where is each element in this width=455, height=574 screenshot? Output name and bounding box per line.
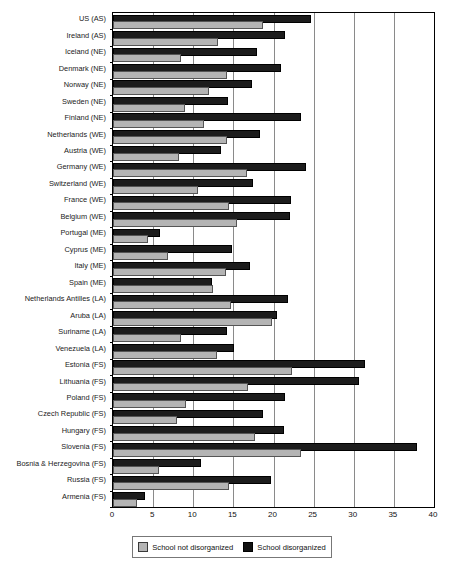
category-label: Russia (FS) [0,476,106,484]
category-label: Ireland (AS) [0,32,106,40]
bar-school-not-disorganized [113,169,247,177]
category-label: Armenia (FS) [0,493,106,501]
bar-school-not-disorganized [113,433,255,441]
bar-group [113,311,434,325]
bar-school-not-disorganized [113,219,237,227]
bar-school-not-disorganized [113,54,181,62]
plot-area [112,12,435,508]
bar-school-not-disorganized [113,186,198,194]
bar-group [113,48,434,62]
chart-legend: School not disorganized School disorgani… [132,536,332,558]
bar-group [113,476,434,490]
bar-school-not-disorganized [113,482,229,490]
bar-school-not-disorganized [113,104,185,112]
bar-group [113,327,434,341]
bar-group [113,15,434,29]
category-label: Austria (WE) [0,147,106,155]
bar-school-not-disorganized [113,202,229,210]
x-tick-label: 5 [150,510,154,519]
bar-school-not-disorganized [113,136,227,144]
bar-group [113,426,434,440]
category-label: Hungary (FS) [0,427,106,435]
bar-group [113,245,434,259]
bar-school-not-disorganized [113,252,168,260]
category-label: Suriname (LA) [0,328,106,336]
bar-chart: US (AS)Ireland (AS)Iceland (NE)Denmark (… [0,0,455,574]
x-tick-label: 30 [348,510,357,519]
bar-school-not-disorganized [113,466,159,474]
x-tick-label: 25 [308,510,317,519]
bar-group [113,229,434,243]
legend-item-not-disorganized: School not disorganized [138,542,233,552]
category-label: Switzerland (WE) [0,180,106,188]
category-label: Poland (FS) [0,394,106,402]
bar-group [113,410,434,424]
bar-group [113,212,434,226]
legend-label-not-disorganized: School not disorganized [152,543,233,552]
category-label: Germany (WE) [0,163,106,171]
bar-group [113,113,434,127]
bar-group [113,295,434,309]
x-tick-label: 15 [228,510,237,519]
category-label: Slovenia (FS) [0,443,106,451]
plot-area-wrapper: US (AS)Ireland (AS)Iceland (NE)Denmark (… [0,0,455,574]
bar-school-not-disorganized [113,416,177,424]
category-label: Estonia (FS) [0,361,106,369]
category-label: Bosnia & Herzegovina (FS) [0,460,106,468]
category-label: Czech Republic (FS) [0,410,106,418]
bar-group [113,459,434,473]
x-tick-label: 10 [188,510,197,519]
category-label: Iceland (NE) [0,48,106,56]
category-label: Cyprus (ME) [0,246,106,254]
x-tick-label: 0 [110,510,114,519]
bar-group [113,31,434,45]
bar-school-not-disorganized [113,87,209,95]
bar-school-not-disorganized [113,71,227,79]
category-label: Spain (ME) [0,279,106,287]
bar-group [113,179,434,193]
category-label: Belgium (WE) [0,213,106,221]
bar-group [113,492,434,506]
bar-school-not-disorganized [113,318,272,326]
category-label: Aruba (LA) [0,312,106,320]
bar-group [113,443,434,457]
category-label: Netherlands Antilles (LA) [0,295,106,303]
y-tick-mark [110,507,113,508]
bar-school-not-disorganized [113,153,179,161]
category-label: Venezuela (LA) [0,345,106,353]
bar-school-not-disorganized [113,235,148,243]
x-tick-label: 35 [388,510,397,519]
bar-group [113,360,434,374]
bar-group [113,393,434,407]
bar-group [113,262,434,276]
bar-group [113,146,434,160]
bar-group [113,196,434,210]
category-label: Denmark (NE) [0,65,106,73]
legend-swatch-light-icon [138,542,148,552]
x-tick-label: 40 [429,510,438,519]
bar-group [113,377,434,391]
category-axis-labels: US (AS)Ireland (AS)Iceland (NE)Denmark (… [0,12,110,508]
bar-school-not-disorganized [113,38,218,46]
value-axis-ticklabels: 0510152025303540 [112,510,435,526]
bar-school-not-disorganized [113,499,137,507]
category-label: Norway (NE) [0,81,106,89]
category-label: Finland (NE) [0,114,106,122]
bar-school-not-disorganized [113,449,301,457]
bar-school-not-disorganized [113,351,217,359]
x-tick-label: 20 [268,510,277,519]
bar-school-not-disorganized [113,120,204,128]
bar-school-not-disorganized [113,367,292,375]
category-label: France (WE) [0,196,106,204]
bar-school-not-disorganized [113,268,226,276]
bar-group [113,64,434,78]
category-label: US (AS) [0,15,106,23]
bar-group [113,80,434,94]
bar-group [113,344,434,358]
bar-school-not-disorganized [113,334,181,342]
category-label: Portugal (ME) [0,229,106,237]
legend-item-disorganized: School disorganized [243,542,325,552]
category-label: Lithuania (FS) [0,378,106,386]
bar-school-not-disorganized [113,383,248,391]
bar-group [113,163,434,177]
